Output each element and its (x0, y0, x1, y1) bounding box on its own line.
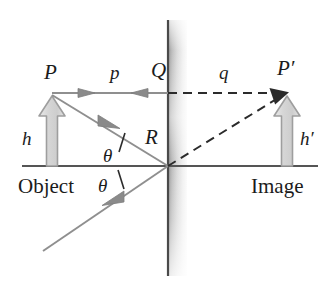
label-image-side: Image (251, 176, 303, 197)
label-object-point-P: P (44, 62, 57, 83)
object-distance-ray (52, 89, 168, 98)
label-image-distance-q: q (219, 63, 229, 82)
label-image-height-h-prime: h′ (300, 129, 314, 148)
label-angle-of-reflection-theta: θ (98, 176, 107, 195)
image-arrow (274, 96, 300, 166)
label-angle-of-incidence-theta: θ (103, 146, 112, 165)
object-arrow (39, 96, 65, 166)
label-object-height-h: h (22, 129, 32, 148)
mirror-glass-band (169, 20, 187, 276)
diagram-canvas (0, 0, 334, 288)
label-mirror-vertex-point-R: R (145, 127, 158, 148)
label-object-distance-p: p (110, 63, 120, 82)
label-mirror-top-point-Q: Q (151, 60, 166, 81)
optics-ray-diagram: P p Q q P′ h h′ R θ θ Object Image (0, 0, 334, 288)
label-object-side: Object (18, 176, 74, 197)
angle-tick-marks (118, 133, 125, 189)
label-image-point-P-prime: P′ (277, 58, 294, 79)
